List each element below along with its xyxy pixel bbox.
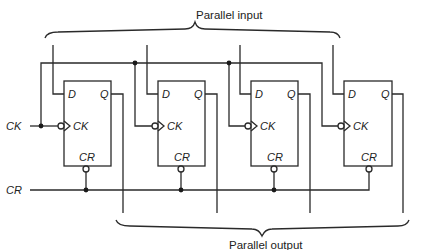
flip-flop-2-clear-bubble [178,166,184,172]
clear-input-label: CR [6,184,22,196]
flip-flop-4-cr-pin: CR [361,151,377,163]
flip-flop-3-clear-bubble [271,166,277,172]
flip-flop-2-ck-pin: CK [167,120,183,132]
flip-flop-1-d-pin: D [68,88,76,100]
output-wire-2 [205,94,217,213]
flip-flop-1-q-pin: Q [100,88,109,100]
flip-flop-2-q-pin: Q [194,88,203,100]
clock-input-label: CK [6,120,22,132]
output-wire-1 [111,94,123,213]
flip-flop-2: D Q CK CR [152,81,205,172]
flip-flop-4: D Q CK CR [338,81,392,172]
flip-flop-3-ck-pin: CK [260,120,276,132]
flip-flop-4-d-pin: D [348,88,356,100]
flip-flop-3: D Q CK CR [245,81,298,172]
flip-flop-4-q-pin: Q [381,88,390,100]
parallel-input-brace [45,22,340,38]
clear-junction-3 [272,188,277,193]
register-circuit-diagram: Parallel input CK CR Parallel output D Q… [0,0,438,250]
flip-flop-3-clock-bubble [245,123,251,129]
flip-flop-2-cr-pin: CR [174,151,190,163]
flip-flop-3-q-pin: Q [287,88,296,100]
input-wire-1 [53,45,64,94]
clock-junction-1 [39,124,44,129]
flip-flop-2-d-pin: D [162,88,170,100]
parallel-input-label: Parallel input [196,9,263,21]
flip-flop-2-clock-bubble [152,123,158,129]
flip-flop-1-clear-bubble [83,166,89,172]
clear-bus [30,171,369,190]
output-wire-4 [392,94,403,213]
parallel-output-brace [116,220,409,236]
clock-junction-3 [227,61,232,66]
flip-flop-4-clock-bubble [338,123,344,129]
input-wire-3 [240,45,251,94]
flip-flop-1-ck-pin: CK [73,120,89,132]
input-wire-4 [333,45,344,94]
clear-junction-1 [84,188,89,193]
output-wire-3 [298,94,310,213]
parallel-output-label: Parallel output [229,239,303,250]
flip-flop-3-d-pin: D [255,88,263,100]
clear-junction-2 [179,188,184,193]
flip-flop-4-clear-bubble [366,166,372,172]
input-wire-2 [147,45,158,94]
flip-flop-3-cr-pin: CR [267,151,283,163]
flip-flop-4-ck-pin: CK [353,120,369,132]
flip-flop-1-cr-pin: CR [79,151,95,163]
clock-junction-2 [133,61,138,66]
flip-flop-1: D Q CK CR [58,81,111,172]
flip-flop-1-clock-bubble [58,123,64,129]
